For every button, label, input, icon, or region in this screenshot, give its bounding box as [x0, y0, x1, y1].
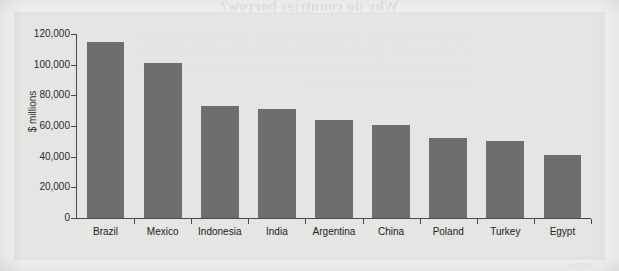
x-axis-label-china: China: [363, 226, 420, 237]
x-axis-label-mexico: Mexico: [134, 226, 191, 237]
bar-slot: [315, 34, 353, 218]
y-axis-tick-mark: [71, 95, 76, 96]
x-axis-tick-mark: [477, 219, 478, 224]
x-axis-tick-mark: [305, 219, 306, 224]
bar-india: [258, 109, 296, 218]
y-axis-tick-labels: 020,00040,00060,00080,000100,000120,000: [14, 12, 70, 260]
bar-slot: [87, 34, 125, 218]
x-axis-label-indonesia: Indonesia: [191, 226, 248, 237]
y-axis-tick-label: 100,000: [22, 60, 70, 70]
bar-argentina: [315, 120, 353, 218]
x-axis-tick-mark: [534, 219, 535, 224]
bars-layer: [77, 34, 591, 218]
bar-slot: [372, 34, 410, 218]
y-axis-tick-label: 60,000: [22, 121, 70, 131]
x-axis-tick-mark: [591, 219, 592, 224]
x-axis-label-poland: Poland: [420, 226, 477, 237]
bar-mexico: [144, 63, 182, 218]
x-axis-tick-mark: [191, 219, 192, 224]
y-axis-tick-label: 40,000: [22, 152, 70, 162]
y-axis-tick-mark: [71, 65, 76, 66]
x-axis-tick-mark: [363, 219, 364, 224]
y-axis-tick-mark: [71, 187, 76, 188]
x-axis-tick-mark: [248, 219, 249, 224]
x-axis-label-egypt: Egypt: [534, 226, 591, 237]
bar-china: [372, 125, 410, 218]
y-axis-tick-label: 20,000: [22, 182, 70, 192]
y-axis-tick-mark: [71, 218, 76, 219]
y-axis-tick-mark: [71, 126, 76, 127]
y-axis-tick-label: 0: [22, 213, 70, 223]
x-axis-label-turkey: Turkey: [477, 226, 534, 237]
bar-slot: [258, 34, 296, 218]
bar-egypt: [544, 155, 582, 218]
bar-poland: [429, 138, 467, 219]
y-axis-tick-label: 80,000: [22, 90, 70, 100]
x-axis-tick-labels: BrazilMexicoIndonesiaIndiaArgentinaChina…: [77, 219, 591, 249]
y-axis-tick-label: 120,000: [22, 29, 70, 39]
scanned-page: Why do countries borrow? borrowed to bui…: [0, 0, 619, 271]
x-axis-tick-mark: [420, 219, 421, 224]
bar-slot: [201, 34, 239, 218]
chart-figure: $ millions 020,00040,00060,00080,000100,…: [14, 12, 605, 260]
bleed-through-footer: borrow: [567, 259, 593, 269]
bar-turkey: [486, 141, 524, 218]
bar-slot: [429, 34, 467, 218]
x-axis-label-argentina: Argentina: [305, 226, 362, 237]
x-axis-tick-mark: [134, 219, 135, 224]
x-axis-label-brazil: Brazil: [77, 226, 134, 237]
bar-slot: [486, 34, 524, 218]
y-axis-tick-mark: [71, 34, 76, 35]
bar-chart-plot-area: $ millions 020,00040,00060,00080,000100,…: [14, 12, 605, 260]
bar-slot: [544, 34, 582, 218]
bar-brazil: [87, 42, 125, 218]
x-axis-label-india: India: [248, 226, 305, 237]
bar-slot: [144, 34, 182, 218]
bar-indonesia: [201, 106, 239, 218]
y-axis-tick-mark: [71, 157, 76, 158]
